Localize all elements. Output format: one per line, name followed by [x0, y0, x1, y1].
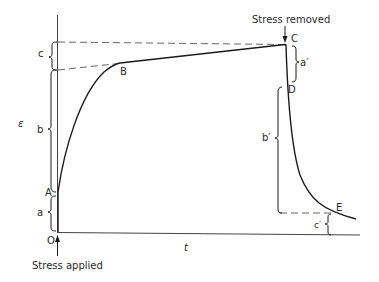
dashed-line-c-top	[58, 42, 284, 45]
arrow-up-icon	[55, 235, 60, 242]
point-b-label: B	[120, 66, 127, 77]
stress-removed-label: Stress removed	[252, 14, 330, 25]
brace-c	[49, 42, 57, 70]
point-e-label: E	[336, 202, 342, 213]
creep-recovery-diagram: ε t O Stress applied Stress removed A B …	[0, 0, 379, 282]
segment-a-prime-label: a′	[300, 57, 309, 68]
brace-a-prime	[292, 46, 299, 82]
x-axis	[57, 233, 360, 236]
brace-c-prime	[325, 214, 331, 235]
x-axis-label: t	[184, 242, 189, 253]
dashed-line-b-extrapolation	[58, 64, 119, 71]
point-c-label: C	[291, 33, 298, 44]
segment-a-label: a	[37, 207, 43, 218]
stress-applied-label: Stress applied	[32, 260, 103, 271]
segment-c-label: c	[38, 48, 44, 59]
brace-b-prime	[275, 87, 282, 213]
creep-curve	[58, 45, 356, 233]
origin-label: O	[47, 235, 55, 246]
segment-c-prime-label: c′	[314, 220, 321, 230]
point-d-label: D	[288, 84, 296, 95]
y-axis-label: ε	[18, 118, 24, 129]
arrow-down-icon	[283, 36, 288, 43]
brace-a	[48, 196, 56, 231]
segment-b-prime-label: b′	[262, 132, 271, 143]
brace-b	[48, 70, 56, 192]
segment-b-label: b	[37, 124, 43, 135]
